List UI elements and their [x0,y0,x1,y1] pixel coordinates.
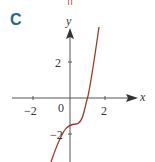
y-tick-2: 2 [55,56,61,71]
y-tick-neg2: −2 [50,128,63,143]
top-mark [68,0,69,5]
x-axis-label: x [140,90,145,105]
graph [0,0,155,162]
x-tick-neg2: −2 [24,104,37,119]
origin-label: 0 [58,101,64,116]
x-tick-2: 2 [101,104,107,119]
y-axis-label: y [66,14,71,29]
